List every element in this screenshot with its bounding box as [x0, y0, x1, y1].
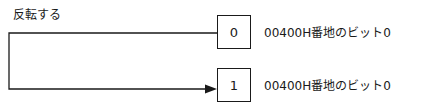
arrow-head-icon — [205, 85, 217, 94]
bit-description-before: 00400H番地のビット0 — [264, 26, 391, 40]
bit-description-after: 00400H番地のビット0 — [264, 79, 391, 93]
bit-box-after: 1 — [217, 68, 251, 102]
bit-box-before: 0 — [217, 15, 251, 49]
